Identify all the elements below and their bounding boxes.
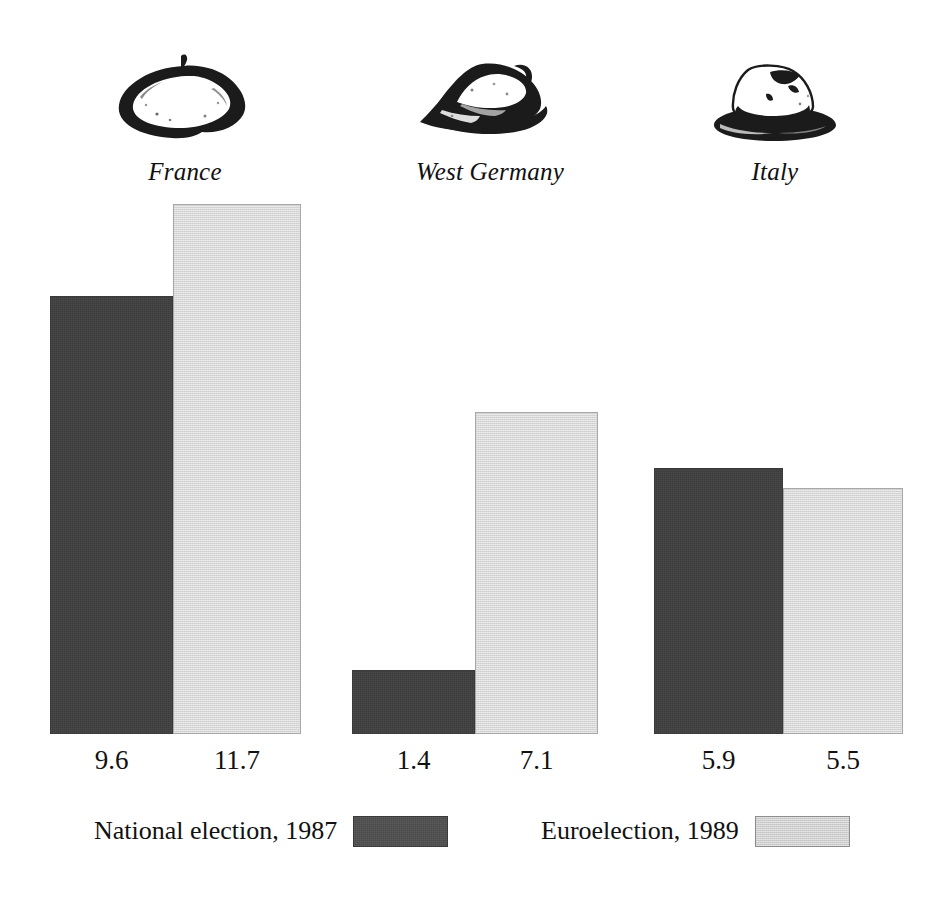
legend-swatch-euroelection-1989	[755, 816, 850, 847]
value-label-west-germany-euro-1989: 7.1	[475, 745, 598, 776]
value-label-france-euro-1989: 11.7	[173, 745, 301, 776]
value-label-france-national-1987: 9.6	[50, 745, 173, 776]
legend-label-euroelection-1989: Euroelection, 1989	[541, 816, 755, 846]
bar-west-germany-national-1987	[352, 670, 475, 734]
legend-item-national-election-1987: National election, 1987	[94, 811, 448, 851]
plot-area: 9.6 11.7 1.4 7.1 5.9 5.5	[0, 0, 948, 902]
bar-france-euro-1989	[173, 204, 301, 734]
legend-label-national-election-1987: National election, 1987	[94, 816, 353, 846]
value-label-italy-euro-1989: 5.5	[783, 745, 903, 776]
bar-italy-national-1987	[654, 468, 783, 734]
bar-france-national-1987	[50, 296, 173, 734]
value-label-italy-national-1987: 5.9	[654, 745, 783, 776]
chart-legend: National election, 1987 Euroelection, 19…	[0, 806, 948, 856]
bar-italy-euro-1989	[783, 488, 903, 734]
value-label-west-germany-national-1987: 1.4	[352, 745, 475, 776]
bar-chart-figure: France West Germany	[0, 0, 948, 902]
legend-swatch-national-election-1987	[353, 816, 448, 847]
bar-west-germany-euro-1989	[475, 412, 598, 734]
legend-item-euroelection-1989: Euroelection, 1989	[541, 811, 850, 851]
